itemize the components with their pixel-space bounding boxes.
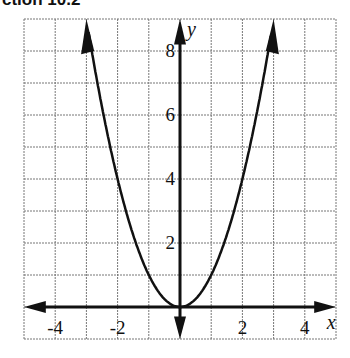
svg-text:x: x bbox=[326, 311, 336, 333]
svg-text:2: 2 bbox=[238, 317, 248, 338]
svg-text:4: 4 bbox=[166, 168, 176, 189]
parabola-graph: -4-2242468xy bbox=[0, 0, 350, 358]
svg-text:6: 6 bbox=[166, 104, 176, 125]
svg-text:8: 8 bbox=[166, 40, 176, 61]
tick-labels: -4-2242468xy bbox=[47, 18, 335, 338]
svg-text:y: y bbox=[185, 18, 196, 41]
svg-text:-2: -2 bbox=[110, 317, 126, 338]
svg-text:2: 2 bbox=[166, 232, 176, 253]
svg-text:4: 4 bbox=[300, 317, 310, 338]
svg-text:-4: -4 bbox=[47, 317, 63, 338]
